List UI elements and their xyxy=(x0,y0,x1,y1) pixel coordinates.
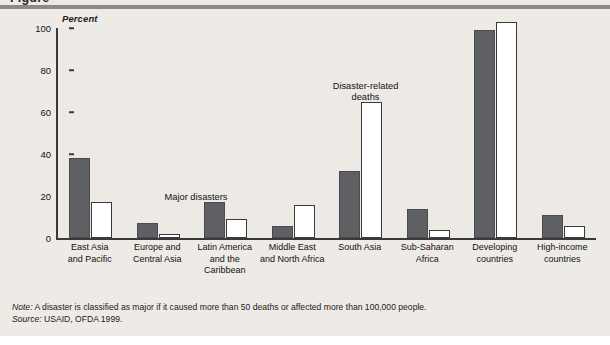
x-axis-label: High-incomecountries xyxy=(529,242,597,265)
bar-major-disasters xyxy=(407,209,428,238)
bar-major-disasters xyxy=(272,226,293,239)
note-text: A disaster is classified as major if it … xyxy=(33,302,427,312)
bar-major-disasters xyxy=(542,215,563,238)
bottom-padding xyxy=(0,336,610,345)
y-tick-label: 60 xyxy=(18,107,51,118)
source-text: USAID, OFDA 1999. xyxy=(42,314,123,324)
footnotes: Note: A disaster is classified as major … xyxy=(12,301,598,325)
x-axis-labels: East Asiaand PacificEurope andCentral As… xyxy=(56,242,596,284)
bar-disaster-related-deaths xyxy=(564,226,585,239)
x-axis-label: Europe andCentral Asia xyxy=(124,242,192,265)
bar-disaster-related-deaths xyxy=(159,234,180,238)
y-axis-title: Percent xyxy=(62,13,98,24)
figure-page: Figure Percent 020406080100 East Asiaand… xyxy=(0,0,610,345)
chart-card: Percent 020406080100 East Asiaand Pacifi… xyxy=(0,9,610,336)
x-axis-label: East Asiaand Pacific xyxy=(56,242,124,265)
y-tick-label: 40 xyxy=(18,149,51,160)
annotation-major-disasters: Major disasters xyxy=(146,192,246,203)
bar-major-disasters xyxy=(339,171,360,238)
note-line: Note: A disaster is classified as major … xyxy=(12,301,598,313)
x-axis-label: Middle Eastand North Africa xyxy=(259,242,327,265)
bar-disaster-related-deaths xyxy=(226,219,247,238)
bar-group xyxy=(259,28,327,238)
bar-group xyxy=(394,28,462,238)
bars-layer xyxy=(56,28,596,238)
bar-disaster-related-deaths xyxy=(294,205,315,239)
bar-major-disasters xyxy=(204,202,225,238)
y-tick-label: 20 xyxy=(18,191,51,202)
bar-group xyxy=(191,28,259,238)
bar-disaster-related-deaths xyxy=(91,202,112,238)
bar-group xyxy=(326,28,394,238)
bar-major-disasters xyxy=(474,30,495,238)
y-tick-label: 0 xyxy=(18,233,51,244)
bar-disaster-related-deaths xyxy=(429,230,450,238)
annotation-disaster-related-deaths: Disaster-relateddeaths xyxy=(313,81,418,103)
y-tick-label: 80 xyxy=(18,65,51,76)
x-axis-label: Latin Americaand theCaribbean xyxy=(191,242,259,277)
y-tick-label: 100 xyxy=(18,23,51,34)
x-axis-line xyxy=(56,238,596,240)
x-axis-label: Sub-SaharanAfrica xyxy=(394,242,462,265)
source-line: Source: USAID, OFDA 1999. xyxy=(12,313,598,325)
x-axis-label: South Asia xyxy=(326,242,394,254)
bar-group xyxy=(461,28,529,238)
bar-major-disasters xyxy=(69,158,90,238)
note-label: Note: xyxy=(12,302,33,312)
bar-group xyxy=(56,28,124,238)
bar-major-disasters xyxy=(137,223,158,238)
x-axis-label: Developingcountries xyxy=(461,242,529,265)
source-label: Source: xyxy=(12,314,42,324)
y-axis-ticks: 020406080100 xyxy=(18,28,51,238)
bar-disaster-related-deaths xyxy=(361,102,382,238)
bar-disaster-related-deaths xyxy=(496,22,517,238)
bar-group xyxy=(529,28,597,238)
bar-group xyxy=(124,28,192,238)
